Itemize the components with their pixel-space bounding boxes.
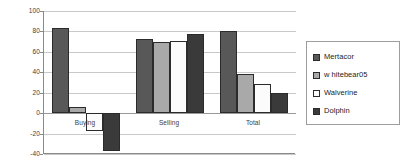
bar-group bbox=[52, 11, 120, 154]
legend-label: Dolphin bbox=[324, 107, 350, 115]
y-tick-label: 40 bbox=[10, 69, 40, 76]
bar bbox=[103, 113, 120, 151]
y-tick-label: 60 bbox=[10, 49, 40, 56]
legend-swatch-icon bbox=[313, 108, 320, 115]
bar bbox=[153, 42, 170, 114]
bar-chart: 100806040200-20-40 BuyingSellingTotal Me… bbox=[0, 0, 408, 168]
gridline--40 bbox=[44, 154, 296, 155]
bar bbox=[220, 31, 237, 113]
bar-group bbox=[136, 11, 204, 154]
bar bbox=[136, 39, 153, 114]
bar bbox=[271, 93, 288, 113]
bar bbox=[52, 28, 69, 113]
x-tick-label: Selling bbox=[127, 120, 211, 127]
x-tick-label: Buying bbox=[43, 120, 127, 127]
plot-area bbox=[43, 11, 295, 154]
legend-label: w hitebear05 bbox=[324, 71, 368, 79]
legend-swatch-icon bbox=[313, 54, 320, 61]
legend-label: Mertacor bbox=[324, 53, 354, 61]
bar bbox=[170, 41, 187, 114]
legend-item[interactable]: Mertacor bbox=[313, 48, 399, 66]
y-tick-label: 0 bbox=[10, 110, 40, 117]
bar bbox=[69, 107, 86, 113]
x-tick-label: Total bbox=[211, 120, 295, 127]
y-tick-label: 80 bbox=[10, 28, 40, 35]
legend: Mertacorw hitebear05WalverineDolphin bbox=[306, 41, 400, 125]
bar bbox=[254, 84, 271, 114]
y-tick-label: 100 bbox=[10, 8, 40, 15]
legend-item[interactable]: Dolphin bbox=[313, 102, 399, 120]
bar bbox=[187, 34, 204, 113]
legend-item[interactable]: w hitebear05 bbox=[313, 66, 399, 84]
y-tick-mark bbox=[40, 154, 43, 155]
bar-group bbox=[220, 11, 288, 154]
legend-swatch-icon bbox=[313, 72, 320, 79]
legend-swatch-icon bbox=[313, 90, 320, 97]
legend-item[interactable]: Walverine bbox=[313, 84, 399, 102]
y-tick-label: -40 bbox=[10, 151, 40, 158]
bar bbox=[237, 74, 254, 113]
legend-label: Walverine bbox=[324, 89, 358, 97]
y-tick-label: -20 bbox=[10, 131, 40, 138]
y-tick-label: 20 bbox=[10, 90, 40, 97]
